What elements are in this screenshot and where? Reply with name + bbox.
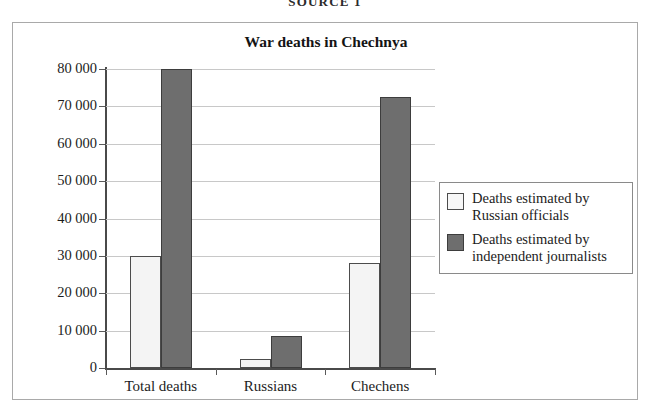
bar-total-deaths-official <box>130 256 161 368</box>
legend-label-official: Deaths estimated by Russian officials <box>472 190 590 224</box>
bar-russians-official <box>240 359 271 368</box>
gridline <box>106 69 435 70</box>
y-axis-tick-label: 80 000 <box>27 60 97 77</box>
y-tick-mark <box>99 368 105 369</box>
chart-legend: Deaths estimated by Russian officials De… <box>439 182 633 274</box>
y-tick-mark <box>99 293 105 294</box>
x-tick-mark <box>435 369 436 375</box>
x-axis-label-chechens: Chechens <box>325 378 435 395</box>
bar-chechens-official <box>349 263 380 368</box>
chart-frame: War deaths in Chechnya 010 00020 00030 0… <box>12 22 638 400</box>
x-axis-label-total-deaths: Total deaths <box>106 378 216 395</box>
legend-label-official-line1: Deaths estimated by <box>472 190 590 206</box>
y-axis-tick-label: 0 <box>27 359 97 376</box>
y-axis-tick-label: 30 000 <box>27 247 97 264</box>
y-axis-labels: 010 00020 00030 00040 00050 00060 00070 … <box>21 23 97 401</box>
y-tick-mark <box>99 331 105 332</box>
legend-label-official-line2: Russian officials <box>472 207 569 223</box>
y-axis-tick-label: 20 000 <box>27 284 97 301</box>
plot-area <box>106 69 435 368</box>
x-tick-mark <box>325 369 326 375</box>
y-tick-mark <box>99 106 105 107</box>
y-axis-tick-label: 70 000 <box>27 97 97 114</box>
legend-label-journalist-line1: Deaths estimated by <box>472 231 590 247</box>
y-tick-mark <box>99 69 105 70</box>
bar-chechens-journalist <box>380 97 411 368</box>
legend-label-journalist: Deaths estimated by independent journali… <box>472 231 607 265</box>
y-tick-mark <box>99 256 105 257</box>
legend-swatch-journalist-icon <box>447 234 464 251</box>
bar-russians-journalist <box>271 336 302 368</box>
y-axis-tick-label: 60 000 <box>27 135 97 152</box>
x-axis-label-russians: Russians <box>216 378 326 395</box>
x-tick-mark <box>216 369 217 375</box>
legend-item-journalist: Deaths estimated by independent journali… <box>447 231 626 265</box>
x-tick-mark <box>106 369 107 375</box>
legend-label-journalist-line2: independent journalists <box>472 248 607 264</box>
chart-title: War deaths in Chechnya <box>13 33 639 51</box>
y-axis-tick-label: 50 000 <box>27 172 97 189</box>
source-caption: SOURCE 1 <box>0 0 650 10</box>
y-axis-tick-label: 10 000 <box>27 322 97 339</box>
y-axis-tick-label: 40 000 <box>27 210 97 227</box>
x-axis-line <box>105 368 436 370</box>
y-tick-mark <box>99 144 105 145</box>
bar-total-deaths-journalist <box>161 69 192 368</box>
legend-swatch-official-icon <box>447 193 464 210</box>
y-tick-mark <box>99 219 105 220</box>
y-tick-mark <box>99 181 105 182</box>
legend-item-official: Deaths estimated by Russian officials <box>447 190 626 224</box>
